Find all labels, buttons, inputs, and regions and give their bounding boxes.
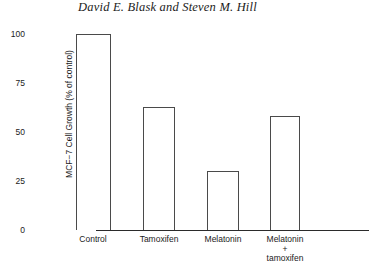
- x-label-melatonin-plus-tamoxifen: Melatonin + tamoxifen: [250, 235, 320, 264]
- y-tick-0: [96, 230, 101, 231]
- x-label-control: Control: [58, 235, 128, 245]
- y-tick-label-75: 75: [0, 79, 25, 88]
- bar-control: [76, 34, 111, 230]
- x-label-tamoxifen: Tamoxifen: [124, 235, 194, 245]
- bar-tamoxifen: [143, 107, 175, 230]
- x-axis-line: [101, 230, 369, 231]
- y-axis-title: MCF−7 Cell Growth (% of control): [64, 34, 74, 194]
- y-tick-label-0: 0: [0, 226, 25, 235]
- x-label-melatonin: Melatonin: [188, 235, 258, 245]
- x-label-line-3: tamoxifen: [250, 254, 320, 264]
- y-tick-label-25: 25: [0, 177, 25, 186]
- page-running-head: David E. Blask and Steven M. Hill: [0, 0, 335, 15]
- bar-chart-figure: MCF−7 Cell Growth (% of control) 100 75 …: [0, 18, 335, 264]
- bar-melatonin-plus-tamoxifen: [270, 116, 300, 230]
- bar-melatonin: [207, 171, 239, 230]
- plot-area: MCF−7 Cell Growth (% of control) 100 75 …: [51, 27, 318, 221]
- y-tick-label-100: 100: [0, 30, 25, 39]
- y-tick-label-50: 50: [0, 128, 25, 137]
